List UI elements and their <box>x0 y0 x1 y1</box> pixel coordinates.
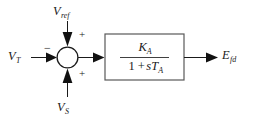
label-vt: VT <box>8 50 20 63</box>
denominator-operator: + <box>136 59 146 73</box>
label-vs-subscript: S <box>65 107 69 116</box>
sign-plus-vref: + <box>79 29 85 40</box>
sign-minus-vt: − <box>44 42 51 54</box>
wire-vs-to-summer <box>63 68 73 97</box>
denominator-symbol: sT <box>146 59 158 73</box>
label-vs-symbol: V <box>57 100 65 114</box>
arrowhead-block-input <box>93 53 105 63</box>
transfer-function-numerator: KA <box>105 41 185 54</box>
numerator-symbol: K <box>138 40 146 54</box>
label-vref: Vref <box>53 5 69 18</box>
label-vref-subscript: ref <box>61 11 70 20</box>
label-vt-subscript: T <box>16 56 20 65</box>
label-efd-subscript: fd <box>230 55 236 64</box>
arrowhead-vref-input <box>63 32 73 47</box>
label-efd-symbol: E <box>222 48 230 62</box>
label-efd: Efd <box>222 49 236 62</box>
wire-summer-to-block <box>78 53 105 63</box>
transfer-function-denominator: 1+sTA <box>105 60 185 73</box>
wire-vref-to-summer <box>63 21 73 47</box>
label-vref-symbol: V <box>53 4 61 18</box>
denominator-one: 1 <box>127 59 136 73</box>
label-vt-symbol: V <box>8 49 16 63</box>
summing-junction-circle <box>57 47 78 68</box>
arrowhead-output <box>206 53 218 63</box>
block-diagram-canvas: Vref VT VS Efd + − + KA 1+sTA <box>0 0 254 123</box>
denominator-subscript: A <box>158 66 163 75</box>
label-vs: VS <box>57 101 69 114</box>
numerator-subscript: A <box>147 47 152 56</box>
sign-plus-vs: + <box>79 68 85 79</box>
arrowhead-vs-input <box>63 68 73 83</box>
wire-block-to-efd <box>184 53 218 63</box>
